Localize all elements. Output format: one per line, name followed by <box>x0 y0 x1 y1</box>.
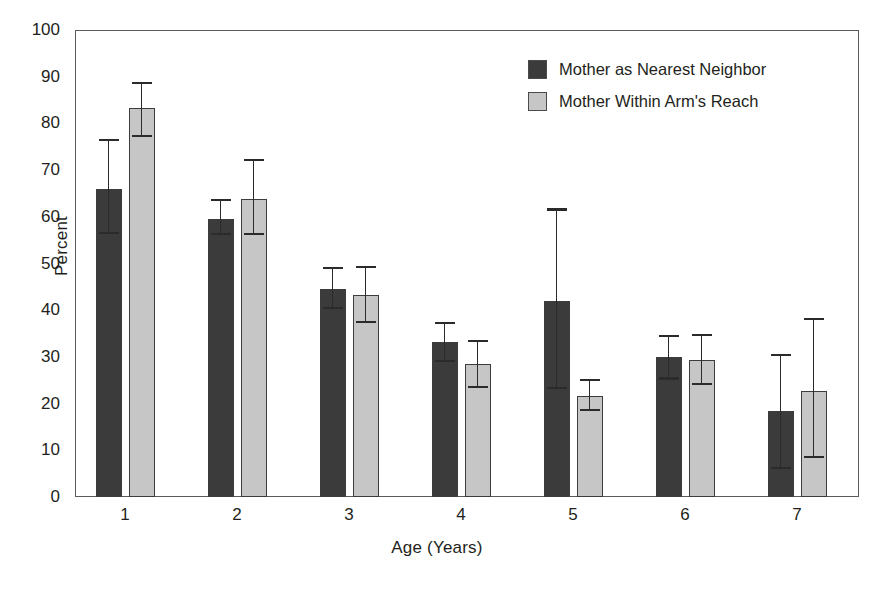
y-tick-label: 90 <box>14 67 60 87</box>
x-axis-title: Age (Years) <box>0 538 874 558</box>
error-bar-cap-upper <box>211 199 231 201</box>
error-bar-cap-lower <box>211 233 231 235</box>
y-tick-label: 50 <box>14 254 60 274</box>
legend-swatch-icon-arms-reach <box>528 92 547 111</box>
error-bar-stem <box>589 380 591 410</box>
error-bar-stem <box>701 335 703 384</box>
error-bar-stem <box>444 323 446 361</box>
error-bar-stem <box>253 160 255 234</box>
x-tick-label: 5 <box>553 505 593 525</box>
error-bar-cap-upper <box>323 267 343 269</box>
bar <box>432 342 458 497</box>
y-tick-label: 10 <box>14 440 60 460</box>
y-tick-label: 70 <box>14 160 60 180</box>
x-tick-label: 6 <box>665 505 705 525</box>
error-bar-cap-upper <box>356 266 376 268</box>
error-bar-cap-lower <box>244 233 264 235</box>
error-bar-stem <box>477 341 479 387</box>
legend-swatch-icon-nearest-neighbor <box>528 60 547 79</box>
legend-item-nearest-neighbor: Mother as Nearest Neighbor <box>528 60 766 79</box>
error-bar-cap-upper <box>804 318 824 320</box>
error-bar-cap-upper <box>132 82 152 84</box>
x-tick-label: 7 <box>777 505 817 525</box>
x-tick-label: 2 <box>217 505 257 525</box>
error-bar-stem <box>813 319 815 458</box>
error-bar-cap-upper <box>468 340 488 342</box>
error-bar-cap-lower <box>356 321 376 323</box>
error-bar-stem <box>332 268 334 308</box>
bar <box>241 199 267 497</box>
x-tick-label: 3 <box>329 505 369 525</box>
y-tick-label: 100 <box>14 20 60 40</box>
error-bar-cap-upper <box>99 139 119 141</box>
error-bar-cap-upper <box>692 334 712 336</box>
error-bar-cap-lower <box>692 383 712 385</box>
y-tick-label: 20 <box>14 394 60 414</box>
error-bar-cap-upper <box>244 159 264 161</box>
y-tick-label: 80 <box>14 113 60 133</box>
y-tick-label: 60 <box>14 207 60 227</box>
bar <box>208 219 234 497</box>
error-bar-cap-lower <box>771 467 791 469</box>
error-bar-cap-lower <box>580 409 600 411</box>
error-bar-cap-lower <box>99 232 119 234</box>
bar-chart-figure: Percent 1009080706050403020100 1234567 A… <box>0 0 874 589</box>
error-bar-cap-upper <box>547 208 567 210</box>
y-axis-tick-labels: 1009080706050403020100 <box>14 0 60 589</box>
error-bar-stem <box>365 267 367 322</box>
x-tick-label: 1 <box>105 505 145 525</box>
error-bar-stem <box>108 140 110 232</box>
error-bar-cap-upper <box>659 335 679 337</box>
legend-label-arms-reach: Mother Within Arm's Reach <box>559 92 758 111</box>
error-bar-cap-lower <box>804 456 824 458</box>
error-bar-cap-upper <box>580 379 600 381</box>
error-bar-cap-lower <box>435 360 455 362</box>
error-bar-stem <box>220 200 222 234</box>
bar <box>320 289 346 497</box>
chart-legend: Mother as Nearest Neighbor Mother Within… <box>528 60 766 124</box>
error-bar-cap-upper <box>435 322 455 324</box>
error-bar-cap-lower <box>323 307 343 309</box>
legend-label-nearest-neighbor: Mother as Nearest Neighbor <box>559 60 766 79</box>
y-tick-label: 0 <box>14 487 60 507</box>
error-bar-stem <box>556 209 558 387</box>
y-tick-label: 40 <box>14 300 60 320</box>
legend-item-arms-reach: Mother Within Arm's Reach <box>528 92 766 111</box>
error-bar-cap-lower <box>468 386 488 388</box>
x-tick-label: 4 <box>441 505 481 525</box>
error-bar-cap-upper <box>771 354 791 356</box>
error-bar-stem <box>668 336 670 378</box>
error-bar-stem <box>780 355 782 468</box>
error-bar-cap-lower <box>132 135 152 137</box>
bar <box>96 189 122 497</box>
y-tick-label: 30 <box>14 347 60 367</box>
bar <box>353 295 379 497</box>
error-bar-cap-lower <box>659 377 679 379</box>
bar <box>129 108 155 497</box>
error-bar-stem <box>141 83 143 136</box>
error-bar-cap-lower <box>547 387 567 389</box>
